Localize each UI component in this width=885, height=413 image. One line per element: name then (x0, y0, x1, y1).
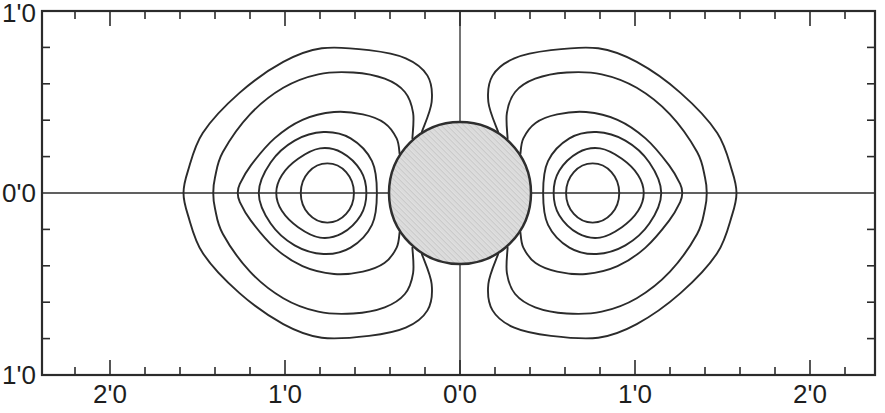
x-tick-label: 1'0 (261, 381, 309, 407)
x-tick-label: 2'0 (86, 381, 134, 407)
x-tick-label: 0'0 (436, 381, 484, 407)
y-tick-label: 0'0 (0, 180, 36, 206)
x-tick-label: 1'0 (611, 381, 659, 407)
y-tick-label: 1'0 (0, 362, 36, 388)
contour-figure: 2'0 1'0 0'0 1'0 2'0 1'0 0'0 1'0 (0, 0, 885, 413)
contour-plot-svg (0, 0, 885, 413)
x-tick-label: 2'0 (786, 381, 834, 407)
central-sphere (389, 122, 531, 264)
y-tick-label: 1'0 (0, 0, 36, 26)
